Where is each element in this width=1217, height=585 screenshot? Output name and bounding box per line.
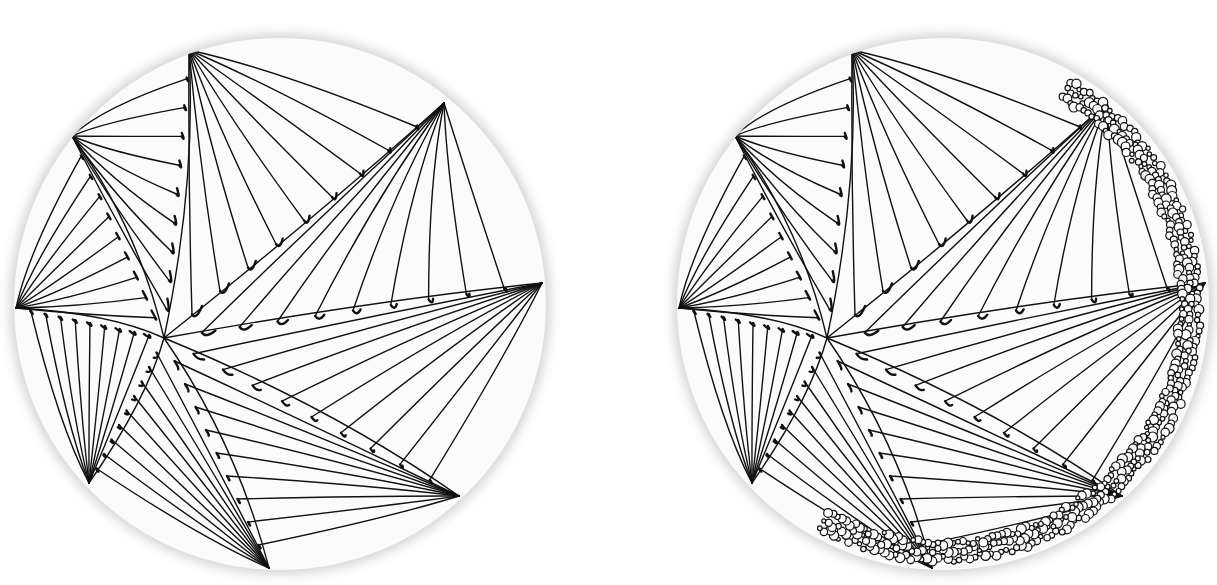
tangle-tile-right: Same tangle drawing with bubble-fill bor…	[677, 38, 1209, 570]
tangle-drawing-right	[677, 38, 1209, 570]
tangle-tile-left: Tangle drawing without border fill	[14, 38, 546, 570]
tangle-drawing-left	[14, 38, 546, 570]
